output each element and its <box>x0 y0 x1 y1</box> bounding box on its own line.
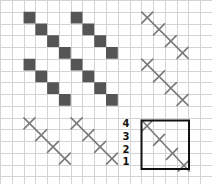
filled-cell <box>94 35 106 47</box>
step-label-3: 3 <box>120 131 132 143</box>
filled-cell <box>71 59 83 71</box>
stitch-diagram: 4 3 2 1 <box>0 0 212 184</box>
filled-cell <box>71 12 83 24</box>
grid-canvas <box>0 0 212 184</box>
filled-cell <box>24 59 36 71</box>
filled-cell <box>82 24 94 36</box>
filled-cell <box>59 94 71 106</box>
filled-cell <box>24 12 36 24</box>
filled-cells <box>24 12 118 106</box>
step-label-1: 1 <box>120 156 132 168</box>
filled-cell <box>35 24 47 36</box>
filled-cell <box>106 94 118 106</box>
filled-cell <box>47 82 59 94</box>
filled-cell <box>59 47 71 59</box>
filled-cell <box>94 82 106 94</box>
filled-cell <box>47 35 59 47</box>
step-label-2: 2 <box>120 144 132 156</box>
filled-cell <box>82 71 94 83</box>
filled-cell <box>35 71 47 83</box>
filled-cell <box>106 47 118 59</box>
step-label-4: 4 <box>120 118 132 130</box>
